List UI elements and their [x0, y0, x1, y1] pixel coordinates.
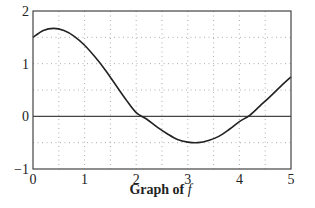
- y-tick-label: 1: [22, 57, 29, 72]
- function-curve: [33, 28, 291, 142]
- caption-function-name: f: [188, 182, 192, 197]
- y-axis-tick-labels: 210−1: [14, 4, 29, 177]
- graph-of-f-chart: 012345 210−1: [0, 0, 315, 208]
- y-tick-label: 0: [22, 109, 29, 124]
- y-tick-label: 2: [22, 4, 29, 19]
- caption-text: Graph of: [129, 182, 184, 197]
- chart-caption: Graph of f: [0, 182, 315, 198]
- y-tick-label: −1: [14, 162, 29, 177]
